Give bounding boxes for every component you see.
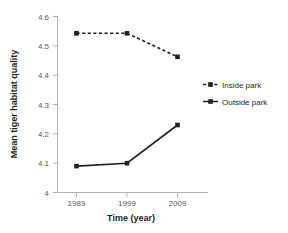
y-tick-label-4-4: 4.4 <box>38 71 50 80</box>
x-tick-label-2009: 2009 <box>169 199 187 208</box>
y-tick-label-4-3: 4.3 <box>38 101 50 110</box>
data-point-outside-park-1999 <box>125 161 130 166</box>
legend-marker-inside-park <box>208 82 213 87</box>
x-tick-label-1989: 1989 <box>68 199 86 208</box>
data-point-inside-park-1989 <box>74 31 79 36</box>
data-point-inside-park-1999 <box>125 31 130 36</box>
y-tick-label-4-6: 4.6 <box>38 13 50 22</box>
x-axis-title: Time (year) <box>107 213 155 223</box>
y-tick-label-4-1: 4.1 <box>38 159 50 168</box>
y-tick-label-4-5: 4.5 <box>38 42 50 51</box>
chart-background <box>0 0 288 233</box>
y-axis-title: Mean tiger habitat quality <box>9 50 19 159</box>
x-tick-label-1999: 1999 <box>118 199 136 208</box>
data-point-outside-park-2009 <box>175 123 180 128</box>
legend-marker-outside-park <box>208 99 213 104</box>
data-point-inside-park-2009 <box>175 55 180 60</box>
legend-label-inside-park: Inside park <box>222 81 262 90</box>
y-tick-label-4-2: 4.2 <box>38 130 50 139</box>
line-chart: 4.6 4.5 4.4 4.3 4.2 4.1 4 1989 1999 2009… <box>0 0 288 233</box>
data-point-outside-park-1989 <box>74 164 79 169</box>
chart-figure: 4.6 4.5 4.4 4.3 4.2 4.1 4 1989 1999 2009… <box>0 0 288 233</box>
y-tick-label-4-0: 4 <box>45 189 50 198</box>
legend-label-outside-park: Outside park <box>222 98 268 107</box>
